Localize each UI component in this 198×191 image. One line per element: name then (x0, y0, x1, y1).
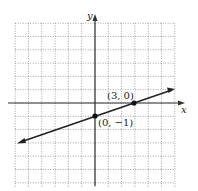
line-right-arrow-icon (167, 88, 175, 94)
point-label-3-0: (3, 0) (107, 90, 134, 101)
point-3-0 (131, 100, 136, 105)
coordinate-graph: x y (3, 0) (0, −1) (0, 0, 198, 191)
y-axis-label: y (86, 10, 93, 21)
x-axis-label: x (181, 104, 187, 115)
axes: x y (8, 10, 187, 186)
line-left-arrow-icon (17, 138, 26, 144)
point-0-neg1 (92, 113, 97, 118)
point-label-0-neg1: (0, −1) (98, 117, 133, 128)
y-axis-arrow-icon (93, 14, 98, 21)
